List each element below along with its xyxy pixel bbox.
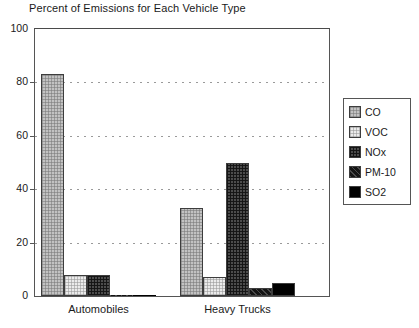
bar-automobiles-voc xyxy=(64,275,87,296)
legend-item-co: CO xyxy=(349,105,381,118)
bar-automobiles-co xyxy=(41,74,64,296)
bar-heavy-trucks-voc xyxy=(203,277,226,296)
bar-automobiles-nox xyxy=(87,275,110,296)
y-axis-label-60: 60 xyxy=(0,129,28,141)
bar-heavy-trucks-nox xyxy=(226,163,249,297)
legend-item-nox: NOx xyxy=(349,145,386,158)
y-axis-label-80: 80 xyxy=(0,75,28,87)
y-tick-40 xyxy=(30,189,34,190)
bar-automobiles-so2 xyxy=(133,295,156,296)
legend-label-co: CO xyxy=(365,106,381,118)
bar-heavy-trucks-so2 xyxy=(272,283,295,296)
legend-item-voc: VOC xyxy=(349,125,388,138)
bar-heavy-trucks-co xyxy=(180,208,203,296)
y-axis-label-20: 20 xyxy=(0,236,28,248)
chart-title: Percent of Emissions for Each Vehicle Ty… xyxy=(29,2,246,14)
legend-swatch-nox-icon xyxy=(349,146,361,158)
emissions-bar-chart: Percent of Emissions for Each Vehicle Ty… xyxy=(0,0,419,328)
legend-label-pm-10: PM-10 xyxy=(365,166,396,178)
gridline-40 xyxy=(35,189,329,190)
x-axis-label-automobiles: Automobiles xyxy=(39,303,159,315)
plot-area xyxy=(34,28,330,297)
y-axis-label-40: 40 xyxy=(0,182,28,194)
chart-legend: COVOCNOxPM-10SO2 xyxy=(343,98,411,205)
gridline-80 xyxy=(35,82,329,83)
legend-label-nox: NOx xyxy=(365,146,386,158)
legend-label-so2: SO2 xyxy=(365,186,386,198)
legend-swatch-co-icon xyxy=(349,106,361,118)
legend-item-pm-10: PM-10 xyxy=(349,165,396,178)
legend-label-voc: VOC xyxy=(365,126,388,138)
bar-heavy-trucks-pm-10 xyxy=(249,288,272,296)
legend-swatch-pm-10-icon xyxy=(349,166,361,178)
legend-swatch-voc-icon xyxy=(349,126,361,138)
y-tick-60 xyxy=(30,136,34,137)
y-tick-80 xyxy=(30,82,34,83)
y-tick-20 xyxy=(30,243,34,244)
legend-swatch-so2-icon xyxy=(349,186,361,198)
bar-automobiles-pm-10 xyxy=(110,295,133,296)
x-axis-label-heavy-trucks: Heavy Trucks xyxy=(178,303,298,315)
legend-item-so2: SO2 xyxy=(349,185,386,198)
gridline-60 xyxy=(35,136,329,137)
y-axis-label-100: 100 xyxy=(0,22,28,34)
y-axis-label-0: 0 xyxy=(0,289,28,301)
